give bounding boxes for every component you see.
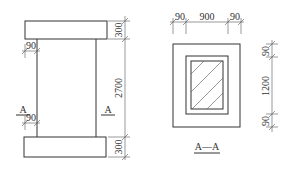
dim-bottom-300: 300: [113, 140, 124, 155]
inner-frame: [186, 56, 228, 114]
section-title: A—A: [195, 141, 220, 152]
section-mark-right: A: [101, 104, 115, 115]
dim-top-900: 900: [200, 11, 215, 22]
dim-right-1200: 1200: [260, 76, 271, 96]
dim-right-90-top: 90: [260, 46, 271, 56]
bottom-base-block: [24, 137, 106, 157]
svg-text:A: A: [104, 104, 112, 115]
dim-top-90-right: 90: [230, 11, 240, 22]
top-dimension: 90 900 90: [170, 11, 244, 34]
dim-right-90-bottom: 90: [260, 116, 271, 126]
svg-text:A: A: [19, 104, 27, 115]
dim-top-300: 300: [113, 23, 124, 38]
hatched-core: [191, 61, 223, 109]
vertical-dimension: 300 2700 300: [108, 16, 130, 160]
dim-flange-90-bottom: 90: [26, 112, 36, 123]
dim-2700: 2700: [113, 78, 124, 98]
elevation-view: 300 2700 300 90 90 A A: [16, 16, 130, 160]
dim-top-90-left: 90: [175, 11, 185, 22]
right-dimension: 90 1200 90: [260, 40, 278, 132]
dim-flange-90-top: 90: [26, 40, 36, 51]
top-cap-block: [25, 21, 107, 39]
section-view: 90 900 90 90 1200 90 A—A: [170, 11, 278, 153]
drawing-canvas: 300 2700 300 90 90 A A: [0, 0, 292, 171]
